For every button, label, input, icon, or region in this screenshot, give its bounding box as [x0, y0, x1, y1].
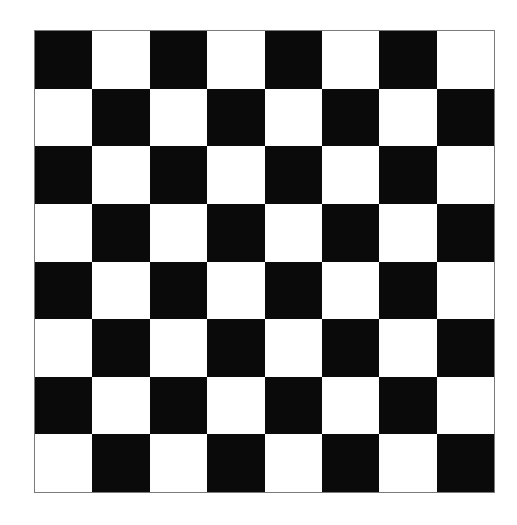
- board-square-dark: [207, 89, 264, 147]
- board-square-dark: [207, 434, 264, 492]
- board-square-light: [150, 319, 207, 377]
- board-square-light: [322, 377, 379, 435]
- board-square-light: [322, 146, 379, 204]
- board-square-dark: [437, 89, 494, 147]
- board-square-light: [92, 377, 149, 435]
- board-square-dark: [207, 319, 264, 377]
- board-square-dark: [265, 31, 322, 89]
- board-square-light: [207, 31, 264, 89]
- board-square-dark: [35, 377, 92, 435]
- board-square-dark: [207, 204, 264, 262]
- board-square-light: [379, 434, 436, 492]
- board-square-dark: [150, 262, 207, 320]
- board-square-light: [92, 146, 149, 204]
- board-square-light: [35, 89, 92, 147]
- board-square-dark: [437, 204, 494, 262]
- board-square-dark: [322, 434, 379, 492]
- checkerboard: [34, 30, 495, 493]
- board-square-dark: [437, 434, 494, 492]
- board-square-light: [35, 434, 92, 492]
- board-square-light: [150, 204, 207, 262]
- board-square-light: [150, 434, 207, 492]
- board-square-light: [265, 319, 322, 377]
- board-square-light: [150, 89, 207, 147]
- board-square-dark: [265, 377, 322, 435]
- board-square-dark: [35, 31, 92, 89]
- board-square-dark: [150, 146, 207, 204]
- board-square-dark: [35, 146, 92, 204]
- board-square-dark: [92, 89, 149, 147]
- board-square-dark: [379, 31, 436, 89]
- board-square-light: [35, 319, 92, 377]
- board-square-dark: [92, 204, 149, 262]
- board-square-light: [265, 434, 322, 492]
- board-square-light: [207, 262, 264, 320]
- board-square-dark: [92, 434, 149, 492]
- board-square-dark: [437, 319, 494, 377]
- board-square-light: [92, 262, 149, 320]
- board-square-light: [437, 262, 494, 320]
- board-square-dark: [379, 146, 436, 204]
- board-square-dark: [265, 262, 322, 320]
- board-square-dark: [379, 262, 436, 320]
- board-square-light: [322, 31, 379, 89]
- board-square-dark: [150, 31, 207, 89]
- board-square-light: [207, 377, 264, 435]
- board-square-light: [379, 89, 436, 147]
- board-square-light: [437, 31, 494, 89]
- board-square-light: [322, 262, 379, 320]
- board-square-dark: [150, 377, 207, 435]
- board-square-dark: [322, 319, 379, 377]
- board-square-dark: [322, 89, 379, 147]
- board-square-light: [437, 377, 494, 435]
- board-square-light: [92, 31, 149, 89]
- board-square-dark: [379, 377, 436, 435]
- board-square-dark: [322, 204, 379, 262]
- board-square-light: [35, 204, 92, 262]
- board-square-dark: [35, 262, 92, 320]
- board-square-light: [437, 146, 494, 204]
- board-square-light: [265, 204, 322, 262]
- board-square-dark: [92, 319, 149, 377]
- board-square-light: [207, 146, 264, 204]
- board-square-dark: [265, 146, 322, 204]
- board-square-light: [265, 89, 322, 147]
- board-square-light: [379, 319, 436, 377]
- board-square-light: [379, 204, 436, 262]
